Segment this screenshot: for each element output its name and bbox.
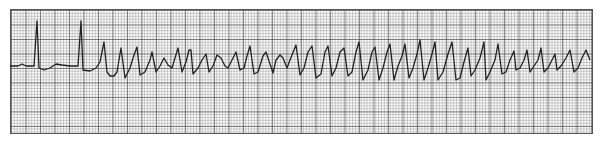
ecg-trace [0, 0, 604, 144]
